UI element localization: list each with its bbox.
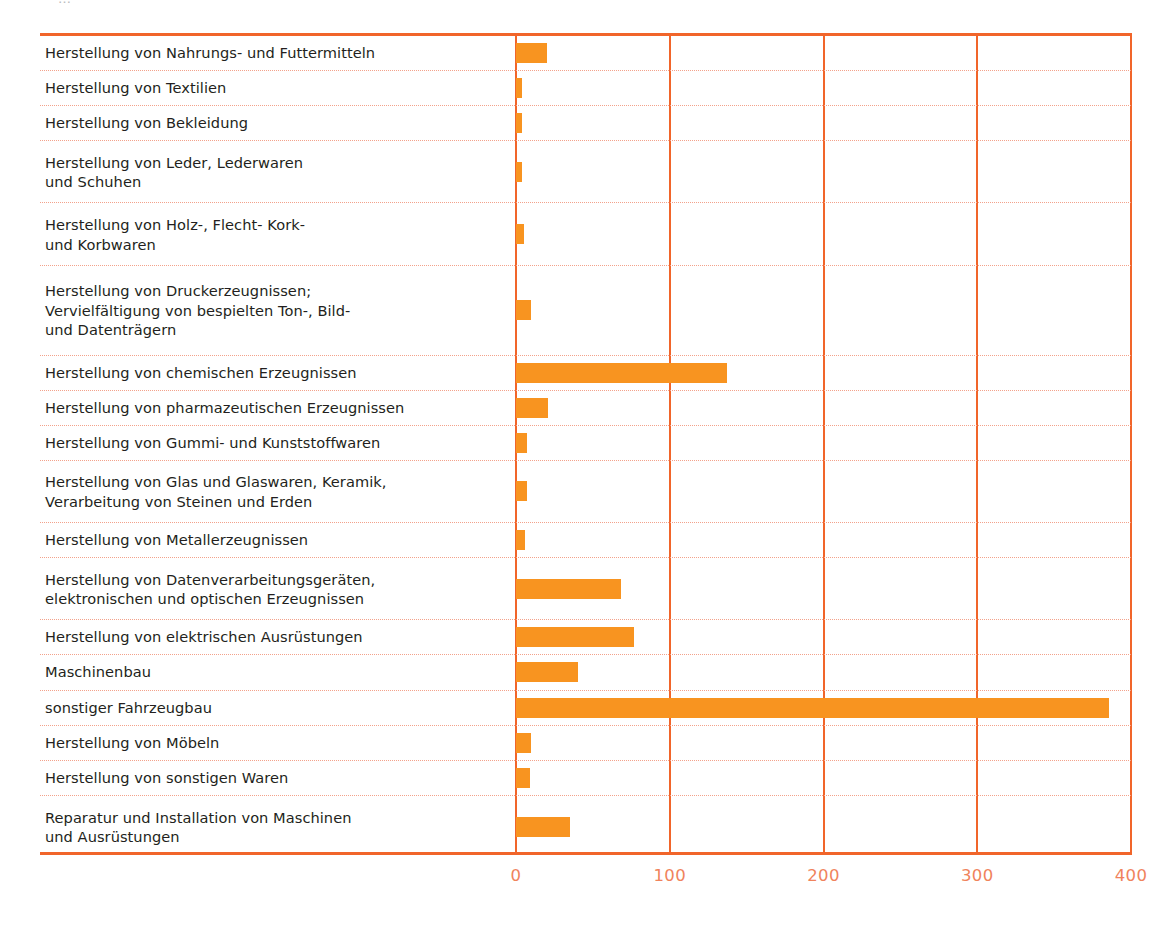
bar-row: Herstellung von Holz-, Flecht- Kork- und… bbox=[40, 203, 1131, 265]
bar bbox=[516, 662, 578, 682]
bar bbox=[516, 398, 548, 418]
x-tick-label: 400 bbox=[1115, 866, 1147, 885]
bar bbox=[516, 698, 1109, 718]
bar-row: Herstellung von chemischen Erzeugnissen bbox=[40, 356, 1131, 391]
bar bbox=[516, 300, 531, 320]
x-tick-label: 300 bbox=[961, 866, 993, 885]
bar bbox=[516, 579, 621, 599]
category-label: sonstiger Fahrzeugbau bbox=[45, 698, 500, 718]
bar bbox=[516, 530, 525, 550]
bar bbox=[516, 224, 524, 244]
chart-plot-area: Herstellung von Nahrungs- und Futtermitt… bbox=[40, 33, 1131, 855]
x-axis-tick-labels: 0100200300400 bbox=[0, 866, 1166, 896]
bar-row: Herstellung von Glas und Glaswaren, Kera… bbox=[40, 461, 1131, 523]
category-label: Herstellung von Holz-, Flecht- Kork- und… bbox=[45, 215, 500, 254]
bar-row: sonstiger Fahrzeugbau bbox=[40, 691, 1131, 726]
category-label: Herstellung von Metallerzeugnissen bbox=[45, 530, 500, 550]
bar-row: Herstellung von sonstigen Waren bbox=[40, 761, 1131, 796]
bar-row: Reparatur und Installation von Maschinen… bbox=[40, 796, 1131, 858]
bar-row: Herstellung von pharmazeutischen Erzeugn… bbox=[40, 391, 1131, 426]
category-label: Herstellung von sonstigen Waren bbox=[45, 768, 500, 788]
category-label: Herstellung von chemischen Erzeugnissen bbox=[45, 363, 500, 383]
category-label: Maschinenbau bbox=[45, 663, 500, 683]
bar bbox=[516, 363, 727, 383]
bar-row: Maschinenbau bbox=[40, 655, 1131, 690]
bar-row: Herstellung von elektrischen Ausrüstunge… bbox=[40, 620, 1131, 655]
x-tick-label: 100 bbox=[654, 866, 686, 885]
bar-row: Herstellung von Datenverarbeitungsgeräte… bbox=[40, 558, 1131, 620]
category-label: Herstellung von Leder, Lederwaren und Sc… bbox=[45, 152, 500, 191]
category-label: Herstellung von Druckerzeugnissen; Vervi… bbox=[45, 281, 500, 340]
bar-row: Herstellung von Bekleidung bbox=[40, 106, 1131, 141]
bar bbox=[516, 817, 570, 837]
bar-rows: Herstellung von Nahrungs- und Futtermitt… bbox=[40, 36, 1131, 852]
category-label: Herstellung von elektrischen Ausrüstunge… bbox=[45, 628, 500, 648]
bar bbox=[516, 627, 634, 647]
caption-remnant: … bbox=[58, 0, 758, 3]
bar bbox=[516, 768, 530, 788]
bar-row: Herstellung von Leder, Lederwaren und Sc… bbox=[40, 141, 1131, 203]
bar bbox=[516, 78, 522, 98]
category-label: Reparatur und Installation von Maschinen… bbox=[45, 807, 500, 846]
category-label: Herstellung von Textilien bbox=[45, 78, 500, 98]
bar bbox=[516, 733, 531, 753]
bar-row: Herstellung von Möbeln bbox=[40, 726, 1131, 761]
category-label: Herstellung von Bekleidung bbox=[45, 113, 500, 133]
category-label: Herstellung von Nahrungs- und Futtermitt… bbox=[45, 43, 500, 63]
bar bbox=[516, 481, 527, 501]
bar bbox=[516, 162, 522, 182]
x-tick-label: 0 bbox=[511, 866, 522, 885]
x-tick-label: 200 bbox=[807, 866, 839, 885]
bar-row: Herstellung von Textilien bbox=[40, 71, 1131, 106]
category-label: Herstellung von pharmazeutischen Erzeugn… bbox=[45, 398, 500, 418]
category-label: Herstellung von Möbeln bbox=[45, 733, 500, 753]
category-label: Herstellung von Gummi- und Kunststoffwar… bbox=[45, 433, 500, 453]
bar-row: Herstellung von Nahrungs- und Futtermitt… bbox=[40, 36, 1131, 71]
bar bbox=[516, 43, 547, 63]
category-label: Herstellung von Datenverarbeitungsgeräte… bbox=[45, 569, 500, 608]
chart-page: … Herstellung von Nahrungs- und Futtermi… bbox=[0, 0, 1166, 925]
bar-row: Herstellung von Druckerzeugnissen; Vervi… bbox=[40, 266, 1131, 356]
bar-row: Herstellung von Gummi- und Kunststoffwar… bbox=[40, 426, 1131, 461]
bar-row: Herstellung von Metallerzeugnissen bbox=[40, 523, 1131, 558]
bar bbox=[516, 113, 522, 133]
bar bbox=[516, 433, 527, 453]
category-label: Herstellung von Glas und Glaswaren, Kera… bbox=[45, 472, 500, 511]
